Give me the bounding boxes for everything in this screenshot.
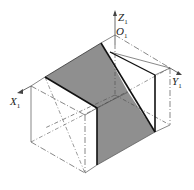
edge [110, 52, 170, 68]
edge [155, 125, 170, 132]
z-arrow-icon [113, 10, 117, 16]
edge [31, 77, 45, 86]
edge [101, 35, 115, 43]
edge [85, 165, 97, 173]
section-outline [110, 52, 155, 75]
y-axis-label: Y1 [172, 76, 182, 90]
x-axis-label: X1 [10, 96, 20, 110]
diagram-canvas [0, 0, 194, 190]
hidden-edge [31, 108, 97, 142]
edge [155, 68, 170, 75]
origin-label: O1 [116, 26, 127, 40]
edge [31, 142, 85, 173]
x-arrow-icon [17, 89, 23, 94]
axonometric-diagram: Z1 O1 X1 Y1 [0, 0, 194, 190]
